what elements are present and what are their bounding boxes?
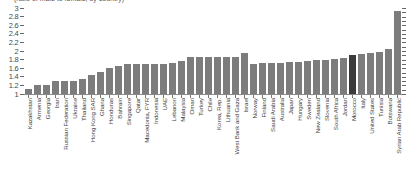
x-axis-label: Kazakhstan — [25, 98, 32, 129]
x-axis-label: New Zealand — [313, 98, 320, 133]
bar-slot — [96, 8, 105, 94]
y-axis-right-tick — [402, 25, 406, 26]
bar — [340, 58, 346, 94]
bar — [304, 61, 310, 94]
x-axis-label-slot: Botswana — [384, 98, 393, 180]
bar-slot — [231, 8, 240, 94]
bar — [124, 64, 130, 94]
bar-slot — [366, 8, 375, 94]
x-axis-label-slot: Thailand — [78, 98, 87, 180]
bar-slot — [294, 8, 303, 94]
y-axis-tick-label: 2.2 — [9, 38, 19, 47]
bar-slot — [51, 8, 60, 94]
x-axis-label-slot: UAE — [159, 98, 168, 180]
x-axis-label-slot: South Africa — [330, 98, 339, 180]
x-axis-label-slot: Lebanon — [168, 98, 177, 180]
bar-slot — [204, 8, 213, 94]
bar — [223, 57, 229, 94]
y-axis-right-tick — [402, 85, 406, 86]
bar-slot — [330, 8, 339, 94]
bar-slot — [348, 8, 357, 94]
bar — [160, 64, 166, 94]
bar — [196, 57, 202, 94]
bar — [250, 64, 256, 94]
y-axis-tick-label: 1.8 — [9, 55, 19, 64]
x-axis-label: Indonesia — [151, 98, 158, 124]
bar-slot — [123, 8, 132, 94]
x-axis-label: Syrian Arab Republic — [394, 98, 401, 154]
y-axis-right-tick — [402, 55, 406, 56]
y-axis-tick: 2 — [15, 47, 24, 56]
bar — [295, 62, 301, 94]
x-axis-label: Australia — [277, 98, 284, 121]
x-axis-label: Georgia — [43, 98, 50, 119]
x-axis-label-slot: Sweden — [303, 98, 312, 180]
x-axis-label: Botswana — [385, 98, 392, 124]
x-axis-label-slot: Turkey — [195, 98, 204, 180]
bar — [322, 60, 328, 94]
chart-title: (ratio of male to female, by country) — [14, 0, 394, 3]
x-axis-label-slot: Morocco — [348, 98, 357, 180]
x-axis-label: Lebanon — [169, 98, 176, 121]
y-axis-right-tick — [402, 94, 406, 95]
bar — [34, 85, 40, 94]
y-axis-tick: 1.4 — [9, 72, 24, 81]
x-axis-label-slot: West Bank and Gaza — [231, 98, 240, 180]
bar — [142, 64, 148, 94]
y-axis-tick: 2.6 — [9, 21, 24, 30]
x-axis-label: Jordan — [340, 98, 347, 116]
bar — [349, 55, 355, 94]
bar-slot — [159, 8, 168, 94]
bar-slot — [141, 8, 150, 94]
x-axis-label: Japan — [286, 98, 293, 114]
x-axis-label: Russian Federation — [61, 98, 68, 150]
x-axis-label: Oman — [187, 98, 194, 114]
x-axis-label: Morocco — [349, 98, 356, 121]
bar-slot — [150, 8, 159, 94]
bar-slot — [213, 8, 222, 94]
y-axis-tick-label: 1.4 — [9, 72, 19, 81]
x-axis-label: Korea, Rep. — [214, 98, 221, 130]
x-axis-label: Ukraine — [70, 98, 77, 119]
x-axis-label-slot: Honduras — [105, 98, 114, 180]
x-axis-label-slot: Norway — [249, 98, 258, 180]
x-axis-label: Hong Kong SAR — [88, 98, 95, 142]
bar-slot — [357, 8, 366, 94]
bar — [151, 64, 157, 94]
y-axis-right-tick — [402, 8, 406, 9]
x-axis-label: Tunisia — [376, 98, 383, 117]
bar — [79, 79, 85, 94]
bar-slot — [132, 8, 141, 94]
y-axis-right-tick — [402, 30, 406, 31]
bar-slot — [258, 8, 267, 94]
bar — [187, 57, 193, 94]
x-axis-label-slot: Indonesia — [150, 98, 159, 180]
y-axis-right-tick — [402, 38, 406, 39]
x-axis-label: Ghana — [97, 98, 104, 116]
bar-slot — [285, 8, 294, 94]
x-axis-label-slot: United States — [366, 98, 375, 180]
bar — [205, 57, 211, 94]
x-axis-label: Italy — [358, 98, 365, 109]
y-axis-right-tick — [402, 51, 406, 52]
x-axis-label-slot: Iran — [51, 98, 60, 180]
y-axis-tick-label: 2.6 — [9, 21, 19, 30]
x-axis-label: Armenia — [34, 98, 41, 120]
y-axis-tick-label: 1.6 — [9, 64, 19, 73]
x-axis-label-slot: Hong Kong SAR — [87, 98, 96, 180]
bar-slot — [240, 8, 249, 94]
y-axis-tick: 1.6 — [9, 64, 24, 73]
x-axis-label: Norway — [250, 98, 257, 118]
bar — [277, 63, 283, 94]
x-axis-label-slot: Chile — [204, 98, 213, 180]
x-axis-label: Honduras — [106, 98, 113, 124]
y-axis-tick-label: 3 — [15, 4, 19, 13]
bar — [358, 54, 364, 94]
x-axis-label: Iran — [52, 98, 59, 108]
bar-slot — [222, 8, 231, 94]
y-axis-tick: 2.4 — [9, 29, 24, 38]
bar — [178, 61, 184, 94]
y-axis-right-tick — [402, 60, 406, 61]
x-axis-label-slot: Korea, Rep. — [213, 98, 222, 180]
bar — [385, 49, 391, 94]
